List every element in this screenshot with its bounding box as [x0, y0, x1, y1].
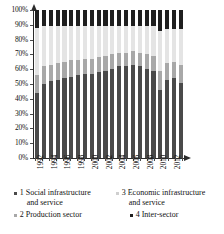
legend-row-top: 1 Social infrastructure and service 3 Ec…	[0, 188, 224, 208]
bar-segment	[117, 66, 121, 158]
legend-item-2: 2 Production sector	[0, 210, 112, 220]
y-axis-tickmark	[30, 10, 33, 11]
bar-segment	[56, 10, 60, 26]
chart-legend: 1 Social infrastructure and service 3 Ec…	[0, 188, 224, 234]
legend-label-1: 1 Social infrastructure and service	[20, 188, 91, 208]
bar-segment	[56, 26, 60, 63]
y-axis-tick-label: 70%	[15, 50, 28, 57]
bar-segment	[179, 10, 183, 29]
bar-segment	[90, 26, 94, 59]
bar	[117, 10, 121, 158]
bar-segment	[117, 53, 121, 66]
bar-segment	[145, 10, 149, 26]
bar-segment	[124, 26, 128, 53]
bar	[49, 10, 53, 158]
bar-segment	[165, 29, 169, 63]
bar-segment	[97, 26, 101, 57]
bar-segment	[69, 10, 73, 26]
bar-segment	[103, 26, 107, 56]
bar-segment	[151, 71, 155, 158]
bar-segment	[158, 31, 162, 71]
bar-segment	[117, 26, 121, 53]
x-axis-arrow-icon	[184, 155, 191, 161]
bar-segment	[151, 56, 155, 71]
bar-segment	[138, 53, 142, 66]
y-axis-tickmark	[30, 69, 33, 70]
bar	[69, 10, 73, 158]
legend-item-1: 1 Social infrastructure and service	[0, 188, 112, 208]
bar-segment	[56, 63, 60, 79]
bar-segment	[131, 51, 135, 64]
bar-segment	[179, 65, 183, 83]
bar-segment	[131, 10, 135, 26]
bar-segment	[131, 26, 135, 51]
legend-row-bottom: 2 Production sector 4 Inter-sector	[0, 210, 224, 220]
bar	[124, 10, 128, 158]
bar-segment	[83, 26, 87, 59]
x-axis-tickmark	[182, 158, 183, 161]
bar-segment	[62, 62, 66, 78]
bar-segment	[151, 10, 155, 26]
bar-segment	[151, 26, 155, 56]
bar-segment	[42, 10, 46, 26]
y-axis-tick-label: 20%	[15, 124, 28, 131]
y-axis-tickmark	[30, 114, 33, 115]
y-axis-tickmark	[30, 40, 33, 41]
bar-segment	[172, 29, 176, 62]
bar-segment	[131, 65, 135, 158]
bar-segment	[179, 29, 183, 65]
y-axis-tickmark	[30, 54, 33, 55]
bar-segment	[110, 26, 114, 54]
bar-segment	[62, 26, 66, 62]
bar	[158, 10, 162, 158]
bar-segment	[49, 65, 53, 81]
y-axis-line	[33, 10, 34, 158]
bar-segment	[62, 78, 66, 158]
bar-segment	[158, 71, 162, 90]
bar-segment	[76, 26, 80, 60]
bar-segment	[124, 53, 128, 66]
bar-segment	[165, 63, 169, 79]
bar	[97, 10, 101, 158]
bar	[110, 10, 114, 158]
legend-label-3: 3 Economic infrastructure and service	[122, 188, 206, 208]
bar-segment	[69, 77, 73, 158]
y-axis-labels: 0%10%20%30%40%50%60%70%80%90%100%	[0, 6, 30, 156]
bar-segment	[42, 84, 46, 158]
y-axis-tick-label: 30%	[15, 110, 28, 117]
bar-segment	[49, 10, 53, 26]
bar-segment	[35, 10, 39, 28]
legend-swatch-icon	[14, 214, 17, 217]
bar-segment	[42, 66, 46, 84]
plot-area: 0%10%20%30%40%50%60%70%80%90%100% 199219…	[0, 6, 224, 186]
bar-segment	[90, 74, 94, 158]
bar-segment	[138, 26, 142, 53]
bar	[103, 10, 107, 158]
bar-segment	[138, 66, 142, 158]
bar-segment	[83, 59, 87, 74]
bar	[35, 10, 39, 158]
bar	[151, 10, 155, 158]
bar	[83, 10, 87, 158]
y-axis-tick-label: 50%	[15, 80, 28, 87]
y-axis-tick-label: 0%	[19, 154, 28, 161]
bar-segment	[35, 93, 39, 158]
bar-segment	[110, 54, 114, 69]
y-axis-tick-label: 60%	[15, 65, 28, 72]
bar-segment	[62, 10, 66, 26]
y-axis-tickmark	[30, 158, 33, 159]
legend-item-4: 4 Inter-sector	[112, 210, 224, 220]
y-axis-tick-label: 100%	[12, 6, 28, 13]
bar	[131, 10, 135, 158]
bar-segment	[49, 26, 53, 64]
bar-segment	[90, 10, 94, 26]
y-axis-tick-label: 10%	[15, 139, 28, 146]
legend-label-4: 4 Inter-sector	[136, 210, 179, 220]
bar-segment	[83, 74, 87, 158]
y-axis-tickmark	[30, 143, 33, 144]
bar	[179, 10, 183, 158]
bar-segment	[172, 10, 176, 29]
bar-segment	[145, 26, 149, 54]
bar	[62, 10, 66, 158]
bar-segment	[103, 10, 107, 26]
